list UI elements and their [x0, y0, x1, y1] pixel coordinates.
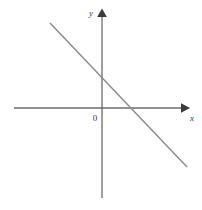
x-axis-label: x [189, 113, 194, 123]
plotted-line-series [50, 23, 187, 167]
y-axis-arrow-icon [97, 9, 107, 18]
x-axis-arrow-icon [181, 103, 190, 113]
coordinate-plane-svg: y x 0 [0, 0, 202, 210]
origin-label: 0 [93, 113, 98, 123]
y-axis-label: y [88, 8, 93, 18]
graph-figure: y x 0 [0, 0, 202, 210]
